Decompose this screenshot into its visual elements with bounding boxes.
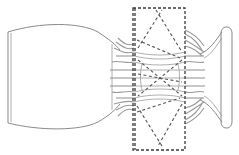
diagram-figure — [0, 0, 239, 155]
strands-right — [185, 30, 205, 124]
strands-left — [110, 38, 134, 116]
left-bowl — [8, 25, 120, 129]
diagram-canvas — [0, 0, 239, 155]
strands-center — [134, 52, 185, 102]
